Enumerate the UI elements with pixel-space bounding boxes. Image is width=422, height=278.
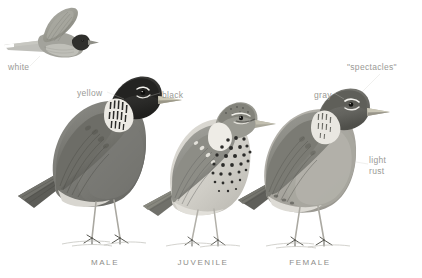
annotation-white: white — [8, 62, 29, 73]
caption-juvenile: JUVENILE — [153, 258, 253, 267]
annotation-spectacles: "spectacles" — [347, 62, 397, 73]
figure-male-robin — [18, 76, 182, 246]
ground-shadow-juvenile — [166, 243, 240, 247]
annotation-black: black — [162, 90, 183, 101]
annotation-gray: gray — [314, 90, 332, 101]
figure-flying-bird — [4, 8, 99, 58]
caption-male: MALE — [55, 258, 155, 267]
robin-plate-artwork — [0, 0, 422, 278]
figure-juvenile-robin — [143, 102, 276, 247]
ground-shadow-female — [266, 243, 350, 248]
annotation-yellow: yellow — [77, 88, 102, 99]
caption-female: FEMALE — [260, 258, 360, 267]
annotation-light-rust: light rust — [369, 155, 386, 176]
illustration-plate: white yellow black gray "spectacles" lig… — [0, 0, 422, 278]
figure-female-robin — [238, 88, 390, 248]
ground-shadow-male — [62, 241, 146, 246]
